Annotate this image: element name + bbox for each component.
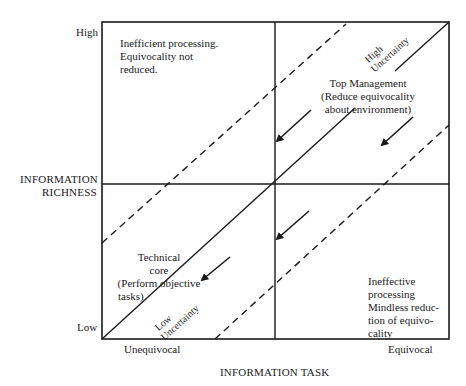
quadrant-top-left-text: Inefficient processing. Equivocality not… — [120, 37, 218, 76]
quadrant-text-line: Inefficient processing. — [120, 37, 218, 50]
quadrant-text-line: (Perform objective — [114, 277, 204, 290]
quadrant-text-line: Technical — [114, 251, 204, 264]
arrow-icon — [202, 257, 230, 280]
y-axis-title-line1: INFORMATION — [20, 173, 98, 186]
quadrant-bottom-right-text: Ineffective processing Mindless reduc- t… — [368, 275, 439, 340]
quadrant-text-line: Ineffective — [368, 275, 439, 288]
quadrant-text-line: about environment) — [318, 103, 418, 116]
quadrant-text-line: Top Management — [318, 77, 418, 90]
y-axis-high-label: High — [76, 26, 98, 39]
quadrant-text-line: reduced. — [120, 63, 218, 76]
y-axis-low-label: Low — [77, 321, 97, 334]
x-axis-title: INFORMATION TASK — [220, 366, 329, 379]
arrow-icon — [277, 211, 309, 239]
quadrant-bottom-left-text: Technical core (Perform objective tasks) — [114, 251, 204, 303]
quadrant-text-line: (Reduce equivocality — [318, 90, 418, 103]
y-axis-title-line2: RICHNESS — [42, 186, 97, 199]
quadrant-text-line: tion of equivo- — [368, 314, 439, 327]
arrow-icon — [382, 117, 413, 145]
quadrant-text-line: processing — [368, 288, 439, 301]
quadrant-top-right-text: Top Management (Reduce equivocality abou… — [318, 77, 418, 116]
main-diagonal-lower — [102, 108, 355, 339]
quadrant-text-line: cality — [368, 327, 439, 340]
arrow-icon — [277, 110, 311, 141]
quadrant-text-line: Equivocality not — [120, 50, 218, 63]
quadrant-text-line: core — [114, 264, 204, 277]
quadrant-text-line: Mindless reduc- — [368, 301, 439, 314]
x-axis-right-label: Equivocal — [388, 343, 433, 356]
x-axis-left-label: Unequivocal — [124, 343, 180, 356]
